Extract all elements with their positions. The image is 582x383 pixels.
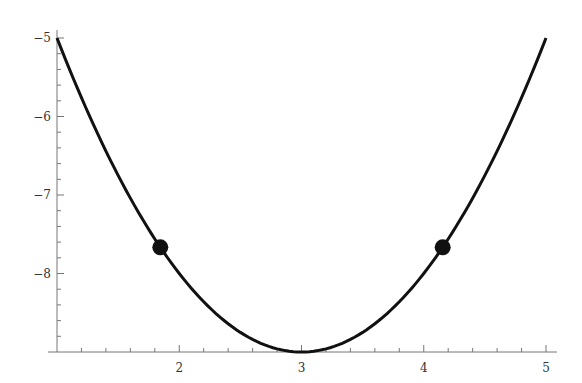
y-tick-label: −6 xyxy=(33,110,51,124)
parabola-chart: 2345 −5−6−7−8 xyxy=(0,0,582,383)
y-tick-label: −8 xyxy=(33,267,51,281)
x-tick-label: 3 xyxy=(298,361,306,375)
parabola-curve xyxy=(57,38,546,352)
axes xyxy=(48,30,557,352)
data-point xyxy=(152,239,168,255)
x-tick-labels: 2345 xyxy=(175,361,549,375)
x-tick-label: 4 xyxy=(420,361,428,375)
y-tick-label: −5 xyxy=(33,31,51,45)
y-tick-label: −7 xyxy=(33,188,51,202)
y-tick-labels: −5−6−7−8 xyxy=(33,31,51,281)
y-ticks xyxy=(57,38,64,336)
data-point xyxy=(435,239,451,255)
x-tick-label: 2 xyxy=(175,361,183,375)
marked-points xyxy=(152,239,450,255)
x-tick-label: 5 xyxy=(542,361,550,375)
